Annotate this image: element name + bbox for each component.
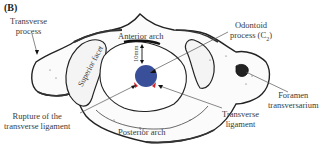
label-anterior-arch: Anterior arch [118, 31, 164, 41]
odontoid-process-circle [135, 65, 157, 87]
label-posterior-arch: Posterior arch [118, 127, 165, 137]
label-transverse-process: Transverse process [10, 16, 47, 36]
foramen-transversarium [236, 64, 248, 76]
label-measurement: 10mm [132, 45, 139, 62]
label-odontoid-process: Odontoid process (C2) [230, 20, 272, 44]
atlas-diagram: (B) [0, 0, 333, 151]
label-transverse-ligament: Transverse ligament [222, 109, 259, 129]
label-rupture-transverse-ligament: Rupture of the transverse ligament [4, 111, 70, 131]
label-foramen-transversarium: Foramen transversarium [268, 90, 319, 110]
